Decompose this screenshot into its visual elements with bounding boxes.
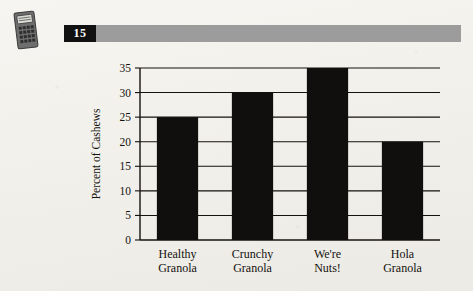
y-tick-label: 20: [120, 136, 132, 148]
bar-chart: 05101520253035HealthyGranolaCrunchyGrano…: [86, 56, 461, 288]
y-tick-label: 35: [120, 62, 132, 74]
bar: [157, 117, 198, 240]
header-number-label: 15: [64, 25, 96, 42]
x-category-label: Nuts!: [314, 261, 341, 275]
x-category-label: Crunchy: [232, 247, 273, 261]
x-category-label: We're: [314, 247, 341, 261]
bar: [232, 93, 273, 240]
y-tick-label: 25: [120, 111, 132, 123]
header-gray-bar: [64, 25, 461, 42]
y-tick-label: 5: [125, 209, 131, 221]
y-tick-label: 15: [120, 160, 132, 172]
section-header: 15: [64, 25, 461, 42]
y-tick-label: 10: [120, 185, 132, 197]
x-category-label: Granola: [158, 261, 197, 275]
y-axis-title: Percent of Cashews: [90, 108, 102, 199]
x-category-label: Granola: [233, 261, 272, 275]
calculator-icon: [11, 9, 41, 51]
bar: [382, 142, 423, 240]
y-tick-label: 30: [120, 87, 132, 99]
y-tick-label: 0: [125, 234, 131, 246]
x-category-label: Healthy: [159, 247, 197, 261]
x-category-label: Hola: [391, 247, 415, 261]
x-category-label: Granola: [383, 261, 422, 275]
bar: [307, 68, 348, 240]
